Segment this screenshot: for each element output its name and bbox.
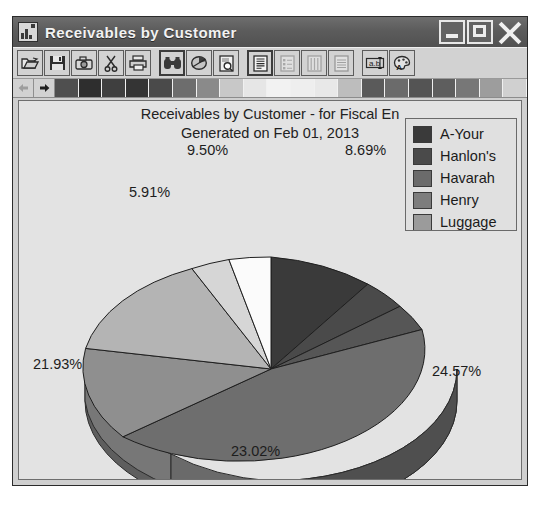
palette-swatch[interactable] bbox=[291, 79, 315, 97]
maximize-icon bbox=[473, 25, 486, 37]
pie-label-5-91: 5.91% bbox=[129, 184, 170, 200]
maximize-button[interactable] bbox=[467, 20, 493, 44]
pie-label-23-02: 23.02% bbox=[231, 443, 280, 459]
camera-icon-button[interactable] bbox=[71, 50, 97, 76]
legend-item-label: Hanlon's bbox=[440, 148, 496, 164]
text-box-icon-button[interactable]: a.b bbox=[362, 50, 388, 76]
application-window: Receivables by Customer bbox=[12, 16, 528, 486]
palette-swatch[interactable] bbox=[315, 79, 339, 97]
palette-swatch[interactable] bbox=[409, 79, 433, 97]
palette-swatch[interactable] bbox=[480, 79, 504, 97]
paint-palette-icon-button[interactable]: A bbox=[389, 50, 415, 76]
pie-chart-icon bbox=[190, 55, 208, 71]
palette-prev-button[interactable] bbox=[13, 79, 34, 97]
pie-chart-icon-button[interactable] bbox=[186, 50, 212, 76]
screenshot-root: Receivables by Customer bbox=[0, 0, 554, 513]
minimize-icon bbox=[446, 34, 458, 38]
legend-item-label: Luggage bbox=[440, 214, 496, 230]
legend-item[interactable]: Luggage bbox=[413, 211, 516, 231]
palette-swatch[interactable] bbox=[503, 79, 527, 97]
report-icon-button[interactable] bbox=[247, 50, 273, 76]
palette-next-button[interactable] bbox=[34, 79, 55, 97]
chart-legend[interactable]: A-YourHanlon'sHavarahHenryLuggage bbox=[405, 118, 517, 231]
svg-text:A: A bbox=[396, 63, 402, 72]
pie-slices bbox=[83, 257, 425, 461]
save-icon bbox=[49, 55, 66, 71]
paint-palette-icon: A bbox=[393, 55, 411, 72]
palette-swatch[interactable] bbox=[362, 79, 386, 97]
pie-label-21-93: 21.93% bbox=[33, 356, 82, 372]
color-palette-bar bbox=[13, 79, 527, 98]
close-button[interactable] bbox=[495, 20, 525, 44]
column-report-icon bbox=[307, 55, 322, 72]
scissors-icon-button[interactable] bbox=[98, 50, 124, 76]
palette-swatch[interactable] bbox=[173, 79, 197, 97]
legend-item[interactable]: Havarah bbox=[413, 167, 516, 189]
pie-label-9-50: 9.50% bbox=[187, 142, 228, 158]
svg-text:a.b: a.b bbox=[369, 59, 381, 68]
window-title: Receivables by Customer bbox=[45, 24, 439, 41]
legend-item[interactable]: A-Your bbox=[413, 123, 516, 145]
report-icon bbox=[253, 55, 268, 72]
rows-report-icon-button[interactable] bbox=[328, 50, 354, 76]
palette-swatch[interactable] bbox=[220, 79, 244, 97]
legend-swatch bbox=[413, 192, 432, 209]
palette-swatches bbox=[55, 79, 527, 97]
pie-label-24-57: 24.57% bbox=[432, 363, 481, 379]
list-report-icon-button[interactable] bbox=[274, 50, 300, 76]
palette-swatch[interactable] bbox=[244, 79, 268, 97]
print-preview-icon-button[interactable] bbox=[213, 50, 239, 76]
arrow-right-icon bbox=[39, 83, 50, 93]
text-box-icon: a.b bbox=[365, 56, 385, 70]
legend-item[interactable]: Hanlon's bbox=[413, 145, 516, 167]
binoculars-icon-button[interactable] bbox=[159, 50, 185, 76]
palette-swatch[interactable] bbox=[197, 79, 221, 97]
printer-icon bbox=[129, 55, 147, 71]
pie-label-8-69: 8.69% bbox=[345, 142, 386, 158]
open-icon-button[interactable] bbox=[17, 50, 43, 76]
window-controls bbox=[439, 20, 525, 44]
palette-swatch[interactable] bbox=[385, 79, 409, 97]
camera-icon bbox=[75, 56, 93, 70]
column-report-icon-button[interactable] bbox=[301, 50, 327, 76]
legend-swatch bbox=[413, 148, 432, 165]
palette-swatch[interactable] bbox=[55, 79, 79, 97]
legend-item-label: Havarah bbox=[440, 170, 495, 186]
palette-swatch[interactable] bbox=[149, 79, 173, 97]
palette-swatch[interactable] bbox=[267, 79, 291, 97]
title-bar: Receivables by Customer bbox=[13, 17, 527, 47]
palette-swatch[interactable] bbox=[102, 79, 126, 97]
save-icon-button[interactable] bbox=[44, 50, 70, 76]
palette-swatch[interactable] bbox=[433, 79, 457, 97]
legend-item-label: Henry bbox=[440, 192, 479, 208]
open-icon bbox=[21, 55, 39, 71]
legend-item[interactable]: Henry bbox=[413, 189, 516, 211]
palette-swatch[interactable] bbox=[126, 79, 150, 97]
chart-canvas: Receivables by Customer - for Fiscal En … bbox=[18, 100, 522, 480]
minimize-button[interactable] bbox=[439, 20, 465, 44]
palette-swatch[interactable] bbox=[338, 79, 362, 97]
print-preview-icon bbox=[219, 55, 234, 72]
palette-swatch[interactable] bbox=[79, 79, 103, 97]
toolbar: a.b A bbox=[13, 47, 527, 79]
legend-swatch bbox=[413, 126, 432, 143]
legend-swatch bbox=[413, 214, 432, 231]
rows-report-icon bbox=[334, 55, 349, 72]
binoculars-icon bbox=[163, 56, 182, 70]
legend-item-label: A-Your bbox=[440, 126, 484, 142]
palette-swatch[interactable] bbox=[456, 79, 480, 97]
arrow-left-icon bbox=[18, 83, 29, 93]
legend-swatch bbox=[413, 170, 432, 187]
printer-icon-button[interactable] bbox=[125, 50, 151, 76]
list-report-icon bbox=[280, 55, 295, 72]
scissors-icon bbox=[104, 55, 118, 72]
chart-report-icon bbox=[18, 22, 38, 42]
